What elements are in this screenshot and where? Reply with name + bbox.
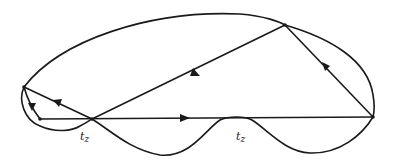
edge-label-tz-1: tz	[80, 131, 89, 144]
edge-label-tz-2: tz	[236, 131, 245, 144]
vertex-e	[371, 115, 375, 119]
vertex-d	[283, 23, 287, 27]
outer-arc-edge	[24, 14, 374, 117]
edge-e-d	[285, 25, 373, 117]
arrowhead-down-icon	[28, 103, 36, 111]
vertex-b	[38, 117, 42, 121]
arrowhead-right-icon	[180, 114, 190, 122]
graph-diagram	[0, 0, 398, 166]
label-subscript: z	[240, 134, 245, 144]
label-subscript: z	[84, 134, 89, 144]
edge-d-c	[92, 25, 285, 119]
vertex-a	[22, 85, 26, 89]
vertex-c	[90, 117, 94, 121]
wavy-bottom-edge	[92, 117, 373, 155]
arrowhead-up-left-icon	[53, 99, 62, 107]
